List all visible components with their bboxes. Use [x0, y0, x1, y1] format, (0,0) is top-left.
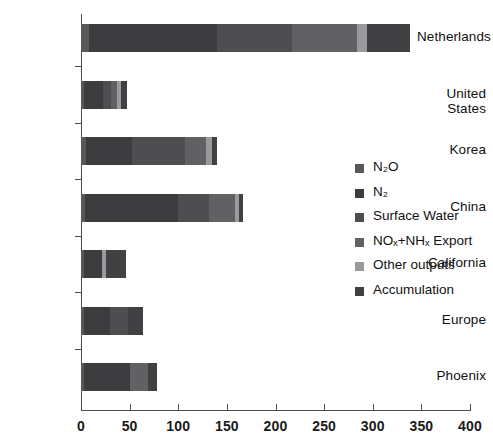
- x-tick: [324, 404, 325, 411]
- legend-label: Accumulation: [373, 282, 454, 297]
- category-label-netherlands: Netherlands: [417, 29, 493, 44]
- bar-segment-n2[interactable]: [89, 24, 217, 52]
- chart-legend: N₂ON₂Surface WaterNOₓ+NHₓ ExportOther ou…: [355, 160, 493, 307]
- legend-item-nox-nhx-export[interactable]: NOₓ+NHₓ Export: [355, 234, 493, 259]
- legend-swatch-icon: [355, 287, 364, 296]
- legend-label: N₂: [373, 184, 388, 199]
- y-tick: [75, 292, 81, 293]
- stacked-bar-netherlands[interactable]: [81, 24, 410, 52]
- x-tick: [421, 404, 422, 411]
- bar-segment-n2[interactable]: [86, 137, 132, 165]
- bar-segment-accumulation[interactable]: [128, 307, 144, 335]
- x-tick: [373, 404, 374, 411]
- y-tick: [75, 66, 81, 67]
- legend-label: Other outputs: [373, 257, 455, 272]
- x-tick: [470, 404, 471, 411]
- category-label-united-states: United States: [417, 86, 493, 116]
- legend-swatch-icon: [355, 213, 364, 222]
- legend-item-accumulation[interactable]: Accumulation: [355, 283, 493, 308]
- y-tick: [75, 179, 81, 180]
- legend-swatch-icon: [355, 189, 364, 198]
- x-tick: [178, 404, 179, 411]
- bar-segment-surface-water[interactable]: [103, 81, 111, 109]
- legend-label: NOₓ+NHₓ Export: [373, 233, 472, 248]
- stacked-bar-united-states[interactable]: [81, 81, 127, 109]
- legend-item-other-outputs[interactable]: Other outputs: [355, 258, 493, 283]
- stacked-bar-europe[interactable]: [81, 307, 143, 335]
- bar-segment-nox-nhx-export[interactable]: [130, 363, 148, 391]
- x-tick: [81, 404, 82, 411]
- stacked-bar-china[interactable]: [81, 194, 243, 222]
- legend-item-n2[interactable]: N₂: [355, 185, 493, 210]
- category-label-europe: Europe: [417, 312, 493, 327]
- bar-segment-surface-water[interactable]: [110, 307, 128, 335]
- bar-segment-other-outputs[interactable]: [357, 24, 367, 52]
- bar-segment-accumulation[interactable]: [106, 250, 125, 278]
- bar-segment-nox-nhx-export[interactable]: [292, 24, 357, 52]
- legend-swatch-icon: [355, 262, 364, 271]
- x-tick: [276, 404, 277, 411]
- category-label-phoenix: Phoenix: [417, 368, 493, 383]
- stacked-bar-chart: 050100150200250300350400 NetherlandsUnit…: [0, 0, 493, 447]
- bar-segment-surface-water[interactable]: [132, 137, 185, 165]
- bar-segment-accumulation[interactable]: [239, 194, 244, 222]
- stacked-bar-korea[interactable]: [81, 137, 217, 165]
- x-tick: [130, 404, 131, 411]
- y-tick: [75, 123, 81, 124]
- bar-segment-surface-water[interactable]: [217, 24, 292, 52]
- legend-item-surface-water[interactable]: Surface Water: [355, 209, 493, 234]
- bar-segment-n2[interactable]: [84, 307, 110, 335]
- bar-segment-accumulation[interactable]: [148, 363, 157, 391]
- legend-label: Surface Water: [373, 208, 459, 223]
- bar-segment-n2[interactable]: [85, 194, 178, 222]
- legend-label: N₂O: [373, 159, 399, 174]
- x-tick-label: 400: [440, 418, 493, 434]
- stacked-bar-phoenix[interactable]: [81, 363, 157, 391]
- bar-segment-n2[interactable]: [84, 363, 130, 391]
- bar-segment-nox-nhx-export[interactable]: [209, 194, 234, 222]
- legend-swatch-icon: [355, 238, 364, 247]
- y-tick: [75, 236, 81, 237]
- bar-segment-accumulation[interactable]: [121, 81, 127, 109]
- y-tick: [75, 349, 81, 350]
- bar-segment-n2o[interactable]: [81, 24, 89, 52]
- bar-segment-accumulation[interactable]: [367, 24, 410, 52]
- bar-segment-n2[interactable]: [84, 250, 102, 278]
- category-label-korea: Korea: [417, 142, 493, 157]
- bar-segment-surface-water[interactable]: [178, 194, 209, 222]
- stacked-bar-california[interactable]: [81, 250, 126, 278]
- bar-segment-accumulation[interactable]: [212, 137, 217, 165]
- x-tick: [227, 404, 228, 411]
- bar-segment-nox-nhx-export[interactable]: [185, 137, 206, 165]
- bar-segment-n2[interactable]: [84, 81, 103, 109]
- legend-swatch-icon: [355, 164, 364, 173]
- legend-item-n2o[interactable]: N₂O: [355, 160, 493, 185]
